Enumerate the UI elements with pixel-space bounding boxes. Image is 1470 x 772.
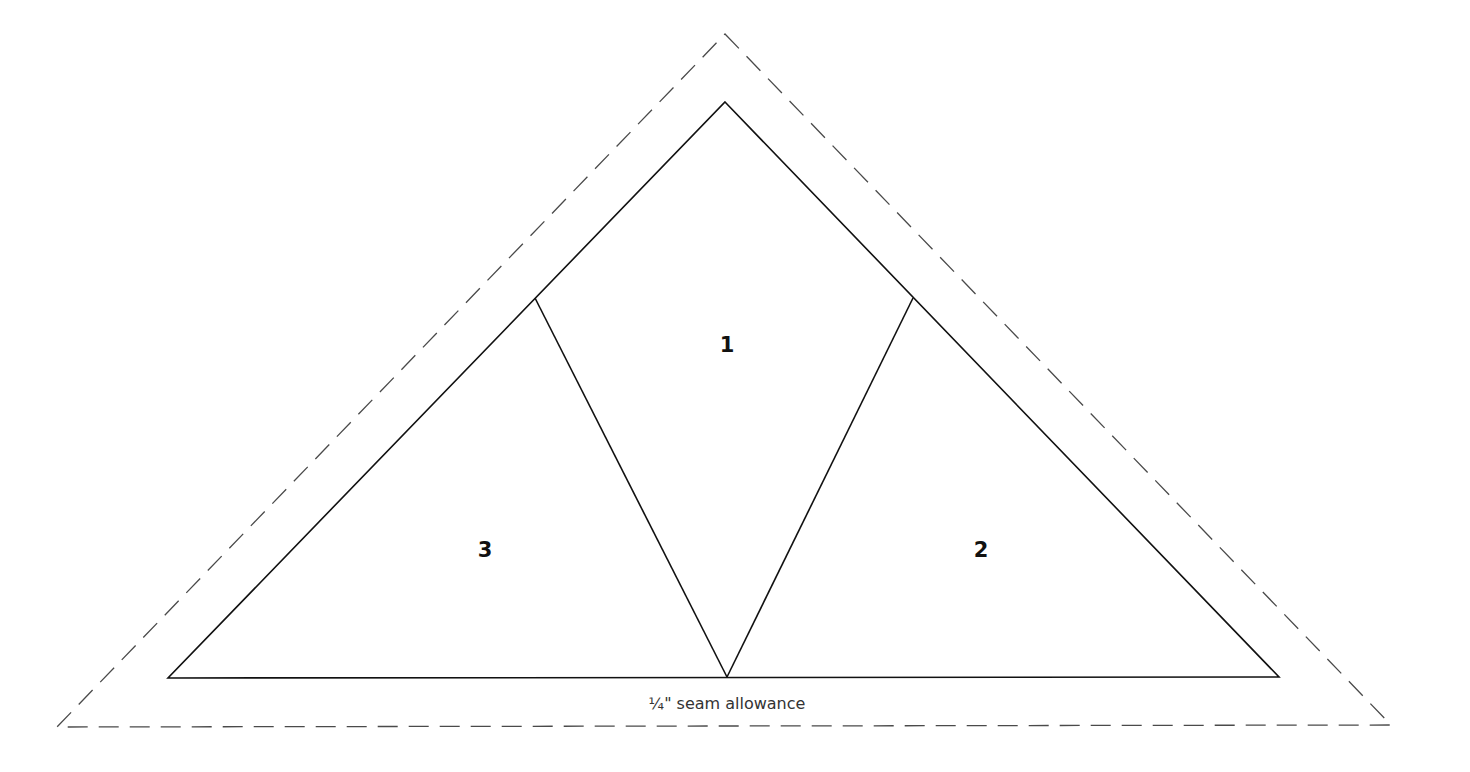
- piece-label-3: 3: [478, 540, 493, 561]
- piece-label-1: 1: [720, 335, 735, 356]
- paper-piecing-diagram: [0, 0, 1470, 772]
- seam-allowance-outline: [57, 34, 1391, 727]
- seam-line-right: [727, 298, 913, 677]
- seam-line-left: [535, 298, 727, 677]
- piece-label-2: 2: [974, 540, 989, 561]
- seam-allowance-caption: ¼" seam allowance: [649, 696, 806, 712]
- finished-block-outline: [168, 102, 1279, 678]
